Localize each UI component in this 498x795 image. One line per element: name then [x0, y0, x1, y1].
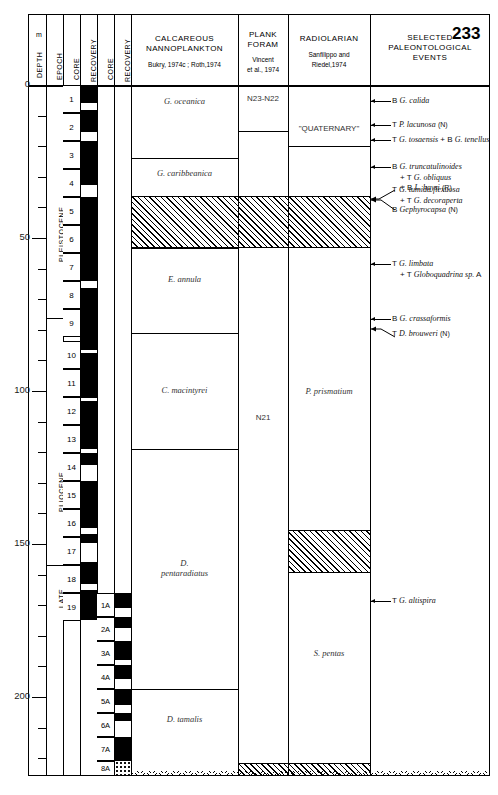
- nanno-zone-boundary: [131, 158, 238, 159]
- event-label: T G. tumida flexuosa + T G. decoraperta: [392, 185, 463, 206]
- recovery-bar: [115, 617, 131, 628]
- depth-tick-major: [32, 544, 46, 545]
- core-box: 8: [63, 281, 80, 309]
- nanno-zone-boundary: [131, 449, 238, 450]
- recovery-bar: [81, 534, 97, 543]
- depth-tick-minor: [38, 360, 46, 361]
- header-depth-unit: m: [33, 30, 45, 40]
- depth-tick-minor: [38, 422, 46, 423]
- depth-tick-minor: [38, 666, 46, 667]
- radio-hatched-interval: [288, 530, 370, 573]
- core-box: 7: [63, 253, 80, 281]
- core-box: 12: [63, 397, 80, 425]
- col-rule-radio-events: [370, 14, 371, 776]
- foram-zone-boundary: [238, 131, 288, 132]
- core-box: 7A: [97, 737, 114, 761]
- nanno-zone-label: D. tamalis: [131, 714, 238, 724]
- depth-tick-minor: [38, 758, 46, 759]
- recovery-dots: [115, 761, 131, 775]
- radio-zone-label: S. pentas: [288, 648, 370, 658]
- depth-tick-minor: [38, 299, 46, 300]
- header-core1: CORE: [73, 58, 80, 80]
- core-box: 16: [63, 509, 80, 537]
- recovery-bar: [115, 641, 131, 660]
- event-arrow: [371, 101, 391, 102]
- depth-tick-minor: [38, 330, 46, 331]
- radio-hatched-interval: [288, 196, 370, 248]
- core-box: 9: [63, 309, 80, 337]
- recovery-bar: [81, 288, 97, 350]
- core-box: 18: [63, 565, 80, 593]
- page-number: 233: [452, 24, 480, 44]
- recovery-bar: [81, 110, 97, 132]
- event-label: B G. crassaformis: [392, 314, 451, 325]
- core-box: 3A: [97, 641, 114, 665]
- depth-tick-minor: [38, 452, 46, 453]
- nanno-zone-boundary: [131, 689, 238, 690]
- core-box: 10: [63, 341, 80, 369]
- col-rule-nanno-foram: [238, 14, 239, 776]
- depth-tick-minor: [38, 116, 46, 117]
- header-radiolarian: RADIOLARIAN Sanfilippo and Riedel,1974: [288, 34, 370, 70]
- epoch-boundary-plio-late: [46, 565, 63, 566]
- recovery-bar: [81, 197, 97, 281]
- core-box: 5A: [97, 689, 114, 713]
- depth-tick-minor: [38, 207, 46, 208]
- core-box: 2: [63, 113, 80, 141]
- recovery-bar: [115, 593, 131, 608]
- depth-tick-minor: [38, 483, 46, 484]
- recovery-bar: [115, 737, 131, 761]
- event-arrow: [371, 601, 391, 602]
- col-rule-core2-rec2: [114, 14, 115, 776]
- event-label: B G. calida: [392, 96, 429, 107]
- core-box: 6A: [97, 713, 114, 737]
- depth-tick-minor: [38, 146, 46, 147]
- core-box: 4: [63, 169, 80, 197]
- event-arrow: [371, 140, 391, 141]
- core-box: 15: [63, 481, 80, 509]
- core-box: 5: [63, 197, 80, 225]
- core-box: 8A: [97, 761, 114, 776]
- recovery-bar: [81, 141, 97, 169]
- depth-tick-major: [32, 697, 46, 698]
- depth-tick-minor: [38, 728, 46, 729]
- depth-label-150: 150: [2, 537, 30, 548]
- event-label: T G. tosaensis + B G. tenellus: [392, 135, 489, 146]
- core-box: 14: [63, 453, 80, 481]
- foram-zone-label: N23-N22: [238, 94, 288, 104]
- depth-label-50: 50: [2, 231, 30, 242]
- depth-label-200: 200: [2, 690, 30, 701]
- header-plank-foram: PLANK FORAM Vincent et al., 1974: [238, 30, 288, 75]
- header-depth: DEPTH: [36, 52, 43, 78]
- core-box: 1: [63, 85, 80, 113]
- col-rule-depth-epoch: [46, 14, 47, 776]
- nanno-zone-label: E. annula: [131, 274, 238, 284]
- depth-tick-major: [32, 391, 46, 392]
- recovery-bar: [115, 713, 131, 721]
- depth-tick-minor: [38, 605, 46, 606]
- depth-tick-major: [32, 85, 46, 86]
- recovery-bar: [81, 169, 97, 185]
- event-arrow: [371, 125, 391, 126]
- recovery-bar: [81, 590, 97, 620]
- nanno-hatched-interval: [131, 196, 238, 248]
- recovery-bar: [81, 453, 97, 465]
- header-epoch: EPOCH: [56, 53, 63, 80]
- core-box: 11: [63, 369, 80, 397]
- depth-tick-minor: [38, 513, 46, 514]
- depth-tick-minor: [38, 636, 46, 637]
- radio-zone-label: "QUATERNARY": [288, 124, 370, 134]
- nanno-zone-label: D. pentaradiatus: [131, 558, 238, 578]
- event-label: T P. lacunosa (N): [392, 120, 448, 131]
- recovery-bar: [81, 353, 97, 398]
- core-box: 4A: [97, 665, 114, 689]
- header-core2: CORE: [107, 58, 114, 80]
- radio-zone-boundary: [288, 146, 370, 147]
- foram-zone-label: N21: [238, 413, 288, 423]
- event-arrow: [371, 264, 391, 265]
- core-box: 17: [63, 537, 80, 565]
- header-recovery1: RECOVERY: [90, 39, 97, 82]
- nanno-zone-label: G. oceanica: [131, 96, 238, 106]
- recovery-bar: [81, 481, 97, 528]
- recovery-bar: [81, 401, 97, 449]
